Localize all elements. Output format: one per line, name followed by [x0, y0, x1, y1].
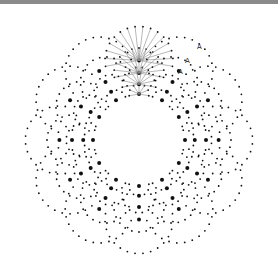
- arc-dot: [186, 122, 188, 124]
- arc-dot: [122, 45, 124, 47]
- arc-dot: [220, 178, 222, 180]
- arc-dot: [49, 172, 51, 174]
- arc-dot: [169, 173, 171, 175]
- arc-dot: [73, 112, 75, 114]
- arc-dot: [219, 131, 221, 133]
- arc-dot: [113, 76, 115, 78]
- arc-dot: [92, 37, 94, 39]
- arc-dot: [125, 66, 127, 68]
- arc-dot: [63, 191, 65, 193]
- arc-dot: [221, 107, 223, 109]
- arc-dot: [185, 73, 187, 75]
- arc-dot: [163, 242, 165, 244]
- arc-dot: [56, 178, 58, 180]
- arc-dot: [119, 56, 121, 58]
- arc-center-dot: [57, 138, 61, 142]
- arc-dot: [212, 106, 214, 108]
- arc-dot: [208, 164, 210, 166]
- arc-dot: [99, 78, 101, 80]
- arc-center-dot: [97, 207, 101, 211]
- arc-dot: [93, 189, 95, 191]
- arc-dot: [90, 83, 92, 85]
- arc-dot: [207, 213, 209, 215]
- arc-dot: [226, 128, 228, 130]
- arc-dot: [207, 83, 209, 85]
- arc-dot: [96, 86, 98, 88]
- arc-dot: [35, 177, 37, 179]
- arc-dot: [175, 180, 177, 182]
- arc-dot: [79, 156, 81, 158]
- arc-dot: [182, 129, 184, 131]
- arc-dot: [198, 235, 200, 237]
- arc-group: [104, 26, 174, 97]
- arc-dot: [105, 108, 107, 110]
- arc-dot: [72, 48, 74, 50]
- arc-dot: [240, 109, 242, 111]
- arc-dot: [226, 150, 228, 152]
- arc-dot: [197, 122, 199, 124]
- arc-dot: [68, 148, 70, 150]
- arc-dot: [155, 86, 157, 88]
- arc-dot: [220, 105, 222, 107]
- arc-dot: [100, 36, 102, 38]
- arc-dot: [208, 193, 210, 195]
- arc-dot: [100, 242, 102, 244]
- arc-dot: [188, 117, 190, 119]
- arc-dot: [54, 69, 56, 71]
- arc-dot: [148, 95, 150, 97]
- arc-center-dot: [109, 90, 113, 94]
- arc-dot: [193, 197, 195, 199]
- arc-dot: [68, 193, 70, 195]
- arc-dot: [108, 241, 110, 243]
- arc-dot: [36, 93, 38, 95]
- arc-dot: [113, 202, 115, 204]
- arc-dot: [220, 173, 222, 175]
- arc-dot: [251, 135, 253, 137]
- arc-dot: [88, 148, 90, 150]
- arc-dot: [152, 205, 154, 207]
- arc-dot: [191, 97, 193, 99]
- arc-dot: [82, 182, 84, 184]
- arc-dot: [57, 105, 59, 107]
- arc-dot: [236, 116, 238, 118]
- arc-dot: [109, 236, 111, 238]
- arc-dot: [106, 222, 108, 224]
- arc-dot: [163, 221, 165, 223]
- arc-dot: [195, 187, 197, 189]
- arc-dot: [181, 83, 183, 85]
- arc-dot: [172, 204, 174, 206]
- arc-dot: [116, 89, 118, 91]
- arc-dot: [74, 106, 76, 108]
- arc-dot: [72, 149, 74, 151]
- arc-dot: [106, 50, 108, 52]
- arc-dot: [61, 212, 63, 214]
- arc-dot: [138, 231, 140, 233]
- arc-dot: [61, 116, 63, 118]
- arc-dot: [175, 98, 177, 100]
- arc-dot: [147, 89, 149, 91]
- arc-dot: [80, 194, 82, 196]
- arc-dot: [90, 122, 92, 124]
- arc-dot: [211, 126, 213, 128]
- arc-dot: [168, 241, 170, 243]
- arc-dot: [196, 194, 198, 196]
- arc-dot: [85, 39, 87, 41]
- arc-dot: [188, 148, 190, 150]
- arc-dot: [129, 189, 131, 191]
- arc-group: [172, 147, 243, 215]
- arc-dot: [72, 186, 74, 188]
- arc-dot: [150, 85, 152, 87]
- arc-dot: [120, 217, 122, 219]
- arc-dot: [95, 195, 97, 197]
- arc-dot: [202, 160, 204, 162]
- arc-dot: [86, 64, 88, 66]
- arc-dot: [95, 125, 97, 127]
- arc-dot: [80, 201, 82, 203]
- arc-dot: [104, 221, 106, 223]
- arc-dot: [181, 195, 183, 197]
- arc-dot: [99, 221, 101, 223]
- arc-dot: [161, 62, 163, 64]
- arc-dot: [205, 129, 207, 131]
- arc-dot: [126, 85, 128, 87]
- arc-dot: [124, 96, 126, 98]
